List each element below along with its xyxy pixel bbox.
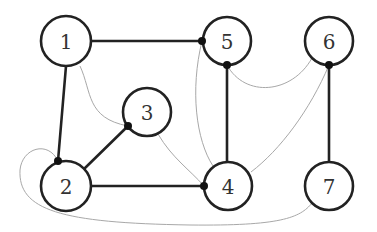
junction-dot-icon — [200, 182, 208, 190]
edge-2-3 — [84, 126, 128, 169]
junction-dot-icon — [198, 37, 206, 45]
node-5-label: 5 — [221, 30, 234, 54]
junction-dots — [54, 37, 333, 190]
node-4: 4 — [204, 162, 252, 210]
node-6-label: 6 — [323, 30, 336, 54]
node-2: 2 — [41, 161, 91, 211]
thick-edges — [58, 41, 329, 186]
node-7-label: 7 — [323, 175, 336, 199]
node-7: 7 — [305, 162, 353, 210]
junction-dot-icon — [124, 122, 132, 130]
node-2-label: 2 — [60, 175, 73, 199]
node-1: 1 — [41, 16, 91, 66]
node-4-label: 4 — [222, 175, 235, 199]
node-6: 6 — [305, 17, 353, 65]
graph-diagram: 1 2 3 4 5 6 7 — [0, 0, 377, 232]
edge-3-4 — [158, 134, 204, 186]
junction-dot-icon — [54, 157, 62, 165]
edge-1-3 — [80, 66, 128, 126]
node-3-label: 3 — [141, 101, 154, 125]
node-5: 5 — [203, 17, 251, 65]
node-1-label: 1 — [60, 30, 73, 54]
junction-dot-icon — [223, 61, 231, 69]
edge-1-2 — [58, 66, 66, 161]
junction-dot-icon — [325, 61, 333, 69]
